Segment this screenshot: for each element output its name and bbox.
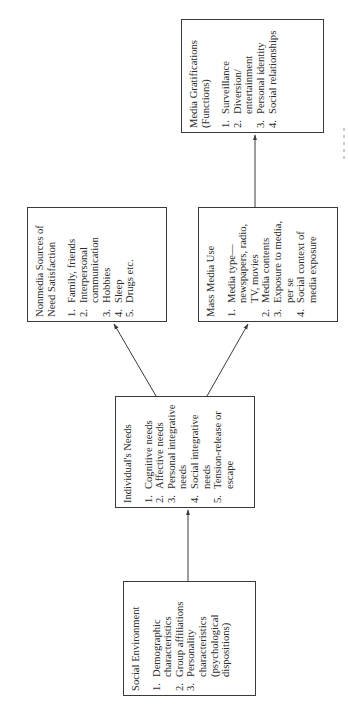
media-gratifications-list: 1.Surveillance 2.Diversion/ entertainmen… bbox=[220, 24, 278, 128]
list-item: 1.Media type—newspapers, radio, TV, movi… bbox=[226, 213, 261, 317]
uses-and-gratifications-diagram: Media Gratifications (Functions) 1.Surve… bbox=[0, 0, 348, 716]
social-environment-list: 1.Demographic characteristics 2.Group af… bbox=[151, 587, 232, 691]
media-gratifications-title: Media Gratifications (Functions) bbox=[188, 24, 211, 128]
list-item: 4.Social integrative needs bbox=[189, 403, 212, 503]
list-item: 1.Cognitive needs bbox=[143, 403, 155, 503]
list-item: 4.Social relationships bbox=[267, 24, 279, 128]
list-item: 2.Media contents bbox=[260, 213, 272, 317]
list-item: 3.Personal identity bbox=[255, 24, 267, 128]
list-item: 3.Personality characteristics (psycholog… bbox=[185, 587, 231, 691]
mass-media-use-box: Mass Media Use 1.Media type—newspapers, … bbox=[198, 207, 338, 322]
social-environment-title: Social Environment bbox=[130, 587, 142, 691]
list-item: 5.Tension-release or escape bbox=[212, 403, 235, 503]
nonmedia-sources-title: Nonmedia Sources of Need Satisfaction bbox=[34, 213, 57, 317]
list-item: 1.Family, friends bbox=[66, 213, 78, 317]
arrow-needs-to-massmedia bbox=[207, 324, 248, 396]
individuals-needs-list: 1.Cognitive needs 2.Affective needs 3.Pe… bbox=[143, 403, 236, 503]
list-item: 3.Hobbies bbox=[101, 213, 113, 317]
mass-media-use-list: 1.Media type—newspapers, radio, TV, movi… bbox=[226, 213, 319, 317]
individuals-needs-box: Individual's Needs 1.Cognitive needs 2.A… bbox=[115, 396, 255, 508]
page-edge-artifact bbox=[343, 128, 346, 168]
social-environment-box: Social Environment 1.Demographic charact… bbox=[123, 581, 256, 696]
list-item: 2.Diversion/ entertainment bbox=[232, 24, 255, 128]
list-item: 3.Personal integrative needs bbox=[166, 403, 189, 503]
nonmedia-sources-box: Nonmedia Sources of Need Satisfaction 1.… bbox=[27, 207, 167, 322]
mass-media-use-title: Mass Media Use bbox=[205, 213, 217, 317]
list-item: 3.Exposure to media, per se bbox=[272, 213, 295, 317]
list-item: 5.Drugs etc. bbox=[124, 213, 136, 317]
list-item: 4.Social context of media exposure bbox=[295, 213, 318, 317]
list-item: 2.Group affiliations bbox=[174, 587, 186, 691]
nonmedia-sources-list: 1.Family, friends 2.Interpersonal commun… bbox=[66, 213, 136, 317]
list-item: 2.Interpersonal communication bbox=[78, 213, 101, 317]
individuals-needs-title: Individual's Needs bbox=[122, 403, 134, 503]
arrow-needs-to-nonmedia bbox=[114, 324, 156, 396]
media-gratifications-box: Media Gratifications (Functions) 1.Surve… bbox=[181, 19, 324, 133]
list-item: 1.Demographic characteristics bbox=[151, 587, 174, 691]
list-item: 1.Surveillance bbox=[220, 24, 232, 128]
list-item: 4.Sleep bbox=[113, 213, 125, 317]
list-item: 2.Affective needs bbox=[154, 403, 166, 503]
